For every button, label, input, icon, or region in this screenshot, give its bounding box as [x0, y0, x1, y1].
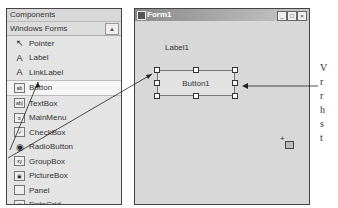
annotation-arrows — [0, 0, 338, 208]
